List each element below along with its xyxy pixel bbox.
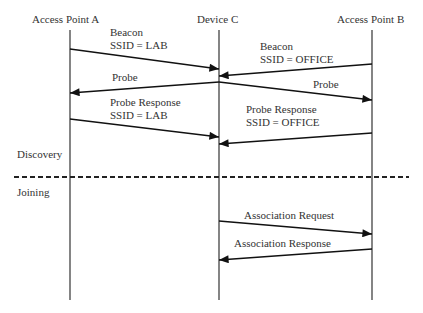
message-detail: SSID = LAB <box>110 109 181 122</box>
label-probe-b: Probe <box>313 78 339 91</box>
arrow-association-request-c-to-b <box>219 221 372 234</box>
label-association-response: Association Response <box>234 237 331 250</box>
participant-access-point-b: Access Point B <box>337 13 404 26</box>
message-name: Probe Response <box>246 103 319 116</box>
arrow-probe-response-b-to-c <box>219 133 372 144</box>
arrow-beacon-a-to-c <box>70 49 219 69</box>
arrow-probe-c-to-a <box>70 82 219 93</box>
message-detail: SSID = LAB <box>110 39 168 52</box>
message-detail: SSID = OFFICE <box>246 116 319 129</box>
label-probe-response-a: Probe Response SSID = LAB <box>110 96 181 122</box>
label-beacon-a: Beacon SSID = LAB <box>110 26 168 52</box>
phase-label-discovery: Discovery <box>17 148 62 161</box>
phase-label-joining: Joining <box>17 186 49 199</box>
participant-access-point-a: Access Point A <box>32 13 99 26</box>
message-name: Beacon <box>260 40 333 53</box>
message-detail: SSID = OFFICE <box>260 53 333 66</box>
message-name: Beacon <box>110 26 168 39</box>
message-name: Probe Response <box>110 96 181 109</box>
sequence-diagram-canvas <box>0 0 423 313</box>
label-probe-response-b: Probe Response SSID = OFFICE <box>246 103 319 129</box>
arrow-association-response-b-to-c <box>219 249 372 260</box>
arrow-probe-c-to-b <box>219 82 372 100</box>
participant-device-c: Device C <box>197 13 238 26</box>
label-beacon-b: Beacon SSID = OFFICE <box>260 40 333 66</box>
label-probe-a: Probe <box>112 71 138 84</box>
label-association-request: Association Request <box>244 209 334 222</box>
